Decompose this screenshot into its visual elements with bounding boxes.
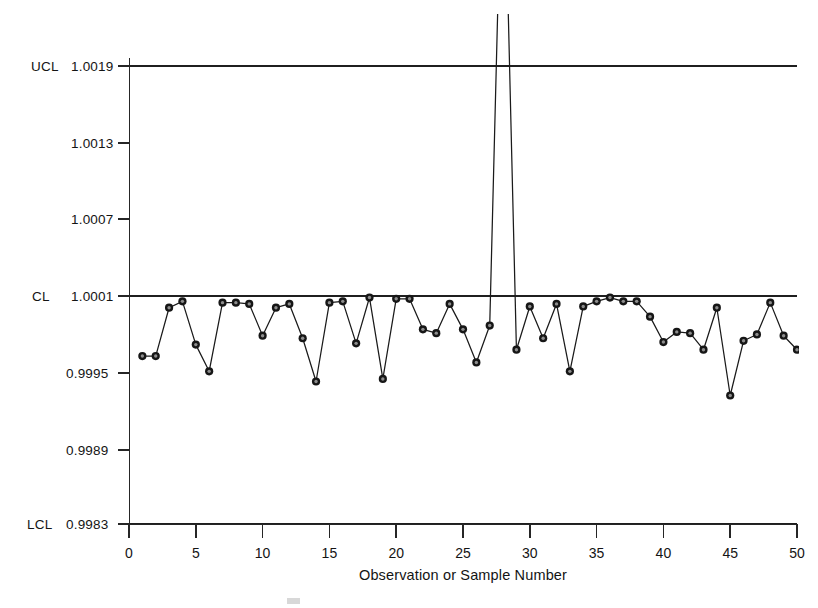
data-point-center [702,348,705,351]
x-tick-label-45: 45 [722,545,738,561]
axes [129,58,797,536]
data-point-center [488,324,491,327]
data-point-center [475,361,478,364]
series-polyline [142,0,797,396]
x-tick-label-25: 25 [455,545,471,561]
data-point-center [742,339,745,342]
data-point-center [381,377,384,380]
data-point-center [395,297,398,300]
data-point-center [635,300,638,303]
x-axis-tick-labels: 05101520253035404550 [125,545,805,561]
x-tick-label-20: 20 [388,545,404,561]
data-point-center [167,306,170,309]
x-tick-label-40: 40 [656,545,672,561]
data-point-center [608,296,611,299]
y-tick-label-0.9995: 0.9995 [66,366,109,381]
y-axis-tick-labels: UCL 1.0019 1.0013 1.0007 CL 1.0001 0.999… [27,59,114,532]
data-point-center [221,301,224,304]
data-point-center [795,348,798,351]
data-point-center [555,302,558,305]
data-point-center [207,370,210,373]
cl-label: CL [32,289,50,304]
data-point-center [662,340,665,343]
data-point-center [421,328,424,331]
scan-artifact [287,598,300,604]
data-point-center [688,331,691,334]
x-tick-label-10: 10 [255,545,271,561]
lcl-label: LCL [27,517,53,532]
data-point-center [648,315,651,318]
data-series [138,0,801,400]
data-point-center [582,305,585,308]
y-tick-label-1.0007: 1.0007 [71,212,114,227]
x-tick-label-5: 5 [192,545,200,561]
y-tick-label-1.0013: 1.0013 [71,136,114,151]
data-point-center [354,342,357,345]
data-point-center [461,328,464,331]
data-point-center [729,394,732,397]
y-tick-label-1.0001: 1.0001 [71,289,114,304]
data-point-center [314,380,317,383]
x-tick-label-0: 0 [125,545,133,561]
data-point-center [248,302,251,305]
data-point-center [328,301,331,304]
x-tick-label-35: 35 [589,545,605,561]
x-tick-label-15: 15 [322,545,338,561]
data-point-center [301,337,304,340]
control-limit-lines [129,66,797,524]
data-point-center [288,302,291,305]
data-point-center [261,334,264,337]
data-point-center [368,296,371,299]
data-point-center [448,302,451,305]
data-point-center [181,300,184,303]
data-point-center [595,300,598,303]
y-tick-label-0.9983: 0.9983 [66,517,109,532]
data-point-center [515,348,518,351]
data-point-center [341,300,344,303]
y-axis-ticks [118,66,129,524]
data-point-center [755,333,758,336]
control-chart: UCL 1.0019 1.0013 1.0007 CL 1.0001 0.999… [0,0,818,608]
data-point-center [234,301,237,304]
data-point-center [568,370,571,373]
data-point-center [622,300,625,303]
ucl-label: UCL [31,59,59,74]
data-point-center [408,297,411,300]
data-point-center [141,354,144,357]
data-point-center [782,334,785,337]
data-point-center [435,331,438,334]
control-chart-canvas: UCL 1.0019 1.0013 1.0007 CL 1.0001 0.999… [0,0,818,608]
x-tick-label-50: 50 [789,545,805,561]
data-point-center [528,305,531,308]
data-point-center [274,306,277,309]
x-tick-label-30: 30 [522,545,538,561]
y-tick-label-1.0019: 1.0019 [71,59,114,74]
data-point-center [541,337,544,340]
data-point-center [769,301,772,304]
y-tick-label-0.9989: 0.9989 [66,443,109,458]
data-point-center [194,343,197,346]
data-point-center [154,354,157,357]
x-axis-ticks [129,524,797,538]
data-point-center [675,330,678,333]
data-point-center [715,306,718,309]
x-axis-title: Observation or Sample Number [359,567,567,583]
